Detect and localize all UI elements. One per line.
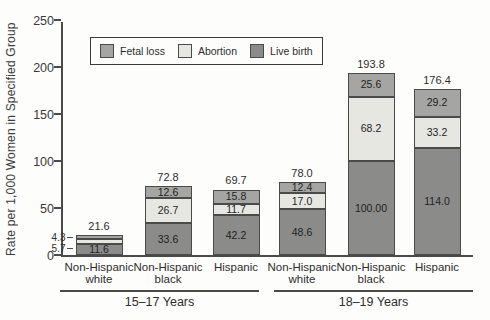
- y-tick-label: 100: [12, 155, 54, 169]
- bar-segment-label: 114.0: [414, 196, 461, 207]
- bar: 33.626.712.672.8: [145, 186, 192, 255]
- y-tick: [54, 66, 61, 68]
- bar-segment-label: 17.0: [279, 196, 326, 207]
- bar: 11.621.6: [76, 235, 123, 255]
- y-tick: [54, 113, 61, 115]
- category-label-line: black: [122, 274, 214, 286]
- bar-segment-label: 29.2: [414, 97, 461, 108]
- bar-segment-label: 15.8: [213, 191, 260, 202]
- y-tick: [54, 160, 61, 162]
- group-label-18-19: 18–19 Years: [274, 295, 473, 309]
- bar-segment-label: 48.6: [279, 227, 326, 238]
- leader-dash: [67, 237, 73, 238]
- bar-segment-fetal_loss: [76, 235, 123, 239]
- bar-segment-label: 42.2: [213, 230, 260, 241]
- live-birth-swatch-icon: [250, 44, 264, 58]
- bar-segment-label: 33.2: [414, 127, 461, 138]
- leader-dash: [67, 248, 73, 249]
- y-axis-title: Rate per 1,000 Women in Specified Group: [4, 22, 22, 257]
- y-tick-label: 50: [12, 202, 54, 216]
- bar-segment-label: 26.7: [145, 205, 192, 216]
- bar-total-label: 176.4: [396, 74, 479, 86]
- outside-segment-label: 4.3: [31, 233, 73, 243]
- bar-total-label: 78.0: [261, 167, 344, 179]
- bar-segment-abortion: [76, 239, 123, 244]
- legend-item-abortion: Abortion: [178, 44, 237, 58]
- bar-segment-label: 11.7: [213, 204, 260, 215]
- bar-segment-label: 11.6: [76, 244, 123, 255]
- y-tick-label: 250: [12, 14, 54, 28]
- y-tick: [54, 207, 61, 209]
- bar: 114.033.229.2176.4: [414, 89, 461, 255]
- bar: 42.211.715.869.7: [213, 189, 260, 255]
- y-tick-label: 150: [12, 108, 54, 122]
- legend-item-live-birth: Live birth: [250, 44, 313, 58]
- bar-segment-label: 25.6: [348, 79, 395, 90]
- legend-label-live-birth: Live birth: [270, 45, 313, 57]
- y-tick: [54, 19, 61, 21]
- legend-item-fetal-loss: Fetal loss: [100, 44, 165, 58]
- group-label-15-17: 15–17 Years: [60, 295, 259, 309]
- category-label-line: black: [325, 274, 417, 286]
- group-underline-15-17: [60, 290, 259, 292]
- y-tick: [54, 254, 61, 256]
- bar-segment-label: 12.6: [145, 187, 192, 198]
- category-label-line: Hispanic: [391, 262, 483, 274]
- legend: Fetal loss Abortion Live birth: [90, 37, 323, 65]
- bar-total-label: 193.8: [330, 58, 413, 70]
- stacked-bar-chart-figure: Rate per 1,000 Women in Specified Group …: [0, 0, 490, 320]
- abortion-swatch-icon: [178, 44, 192, 58]
- fetal-loss-swatch-icon: [100, 44, 114, 58]
- y-tick-label: 200: [12, 61, 54, 75]
- bar-segment-label: 100.00: [348, 203, 395, 214]
- bar: 48.617.012.478.0: [279, 182, 326, 255]
- bar-segment-label: 12.4: [279, 182, 326, 193]
- bar: 100.0068.225.6193.8: [348, 73, 395, 255]
- legend-label-fetal-loss: Fetal loss: [120, 45, 165, 57]
- category-label: Hispanic: [391, 262, 483, 274]
- bar-total-label: 21.6: [58, 220, 141, 232]
- bar-segment-label: 68.2: [348, 123, 395, 134]
- bar-segment-label: 33.6: [145, 234, 192, 245]
- y-tick-label: 0: [12, 249, 54, 263]
- legend-label-abortion: Abortion: [198, 45, 237, 57]
- group-underline-18-19: [274, 290, 473, 292]
